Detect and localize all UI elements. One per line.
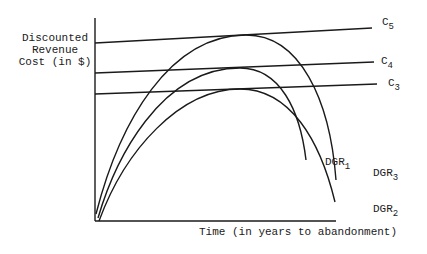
x-axis-label: Time (in years to abandonment) xyxy=(199,226,397,238)
label-c3: C3 xyxy=(388,77,400,93)
curve-dgr3 xyxy=(96,35,336,214)
label-c5: C5 xyxy=(382,16,394,32)
label-dgr1: DGR1 xyxy=(325,156,350,172)
chart-plot xyxy=(0,0,427,254)
curve-dgr2 xyxy=(99,89,335,221)
label-dgr2: DGR2 xyxy=(373,203,398,219)
label-dgr3: DGR3 xyxy=(373,167,398,183)
label-c4: C4 xyxy=(381,55,393,71)
